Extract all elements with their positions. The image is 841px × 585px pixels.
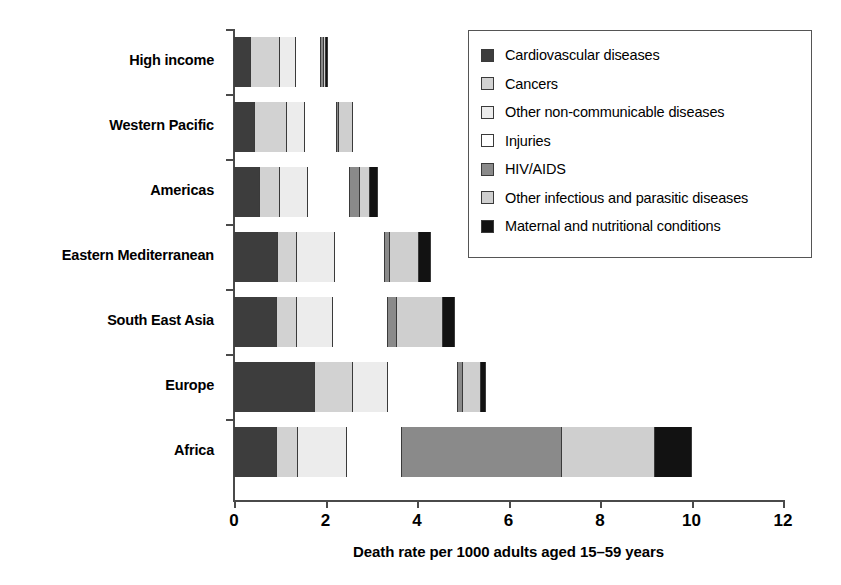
bar-africa [234, 427, 692, 477]
bar-segment-other-non-communicable-diseases [280, 167, 308, 217]
legend-label: Injuries [505, 133, 551, 149]
x-axis-tick [326, 500, 328, 508]
bar-segment-maternal-and-nutritional-conditions [443, 297, 455, 347]
y-axis-category-labels: High incomeWestern PacificAmericasEaster… [0, 0, 224, 500]
bar-segment-cancers [251, 37, 280, 87]
bar-segment-other-infectious-and-parasitic-diseases [463, 362, 481, 412]
x-axis-tick [692, 500, 694, 508]
bar-segment-hiv-aids [350, 167, 360, 217]
bar-segment-other-infectious-and-parasitic-diseases [562, 427, 655, 477]
bar-segment-other-infectious-and-parasitic-diseases [360, 167, 370, 217]
x-axis-tick [783, 500, 785, 508]
legend-item-other-non-communicable-diseases: Other non-communicable diseases [481, 98, 799, 127]
bar-segment-cardiovascular-diseases [234, 297, 277, 347]
bar-segment-other-non-communicable-diseases [297, 232, 335, 282]
legend-label: Cardiovascular diseases [505, 47, 660, 63]
x-axis-tick-label: 10 [682, 511, 701, 531]
bar-segment-cancers [278, 232, 297, 282]
y-axis-tick [226, 29, 235, 31]
bar-segment-cancers [277, 297, 297, 347]
chart-figure: High incomeWestern PacificAmericasEaster… [0, 0, 841, 585]
bar-segment-cancers [255, 102, 287, 152]
y-axis-tick [226, 419, 235, 421]
x-axis-tick-label: 8 [595, 511, 604, 531]
bar-segment-other-non-communicable-diseases [287, 102, 305, 152]
bar-segment-other-infectious-and-parasitic-diseases [397, 297, 443, 347]
legend-item-cancers: Cancers [481, 70, 799, 99]
bar-segment-other-non-communicable-diseases [280, 37, 296, 87]
plot-area: High incomeWestern PacificAmericasEaster… [0, 0, 841, 585]
legend-label: HIV/AIDS [505, 161, 566, 177]
bar-segment-other-infectious-and-parasitic-diseases [339, 102, 353, 152]
bar-segment-cardiovascular-diseases [234, 167, 260, 217]
bar-americas [234, 167, 378, 217]
bar-europe [234, 362, 486, 412]
bar-segment-other-infectious-and-parasitic-diseases [390, 232, 419, 282]
bar-segment-cardiovascular-diseases [234, 37, 251, 87]
legend-swatch-icon [481, 134, 494, 147]
legend-item-cardiovascular-diseases: Cardiovascular diseases [481, 41, 799, 70]
x-axis-tick-label: 2 [321, 511, 330, 531]
bar-segment-cardiovascular-diseases [234, 232, 278, 282]
legend-item-other-infectious-and-parasitic-diseases: Other infectious and parasitic diseases [481, 184, 799, 213]
bar-high-income [234, 37, 328, 87]
y-axis-label-western-pacific: Western Pacific [109, 117, 214, 133]
bar-segment-injuries [388, 362, 458, 412]
y-axis-label-south-east-asia: South East Asia [107, 312, 214, 328]
bar-south-east-asia [234, 297, 455, 347]
bar-segment-other-non-communicable-diseases [297, 297, 333, 347]
x-axis-tick [600, 500, 602, 508]
legend-item-hiv-aids: HIV/AIDS [481, 155, 799, 184]
y-axis-tick [226, 354, 235, 356]
bar-western-pacific [234, 102, 353, 152]
x-axis-tick [234, 500, 236, 508]
legend-label: Cancers [505, 76, 558, 92]
legend-label: Maternal and nutritional conditions [505, 218, 721, 234]
y-axis-tick [226, 289, 235, 291]
bar-segment-cancers [315, 362, 353, 412]
bar-segment-maternal-and-nutritional-conditions [655, 427, 692, 477]
legend-swatch-icon [481, 106, 494, 119]
x-axis-tick-label: 0 [229, 511, 238, 531]
legend-swatch-icon [481, 163, 494, 176]
bar-segment-cancers [260, 167, 280, 217]
bar-segment-injuries [335, 232, 385, 282]
x-axis-tick-label: 12 [774, 511, 793, 531]
y-axis-label-africa: Africa [174, 442, 214, 458]
x-axis-tick [509, 500, 511, 508]
bar-eastern-mediterranean [234, 232, 431, 282]
legend-item-maternal-and-nutritional-conditions: Maternal and nutritional conditions [481, 212, 799, 241]
bar-segment-cancers [277, 427, 297, 477]
legend-swatch-icon [481, 220, 494, 233]
y-axis-label-americas: Americas [150, 182, 214, 198]
bar-segment-injuries [308, 167, 350, 217]
bar-segment-hiv-aids [388, 297, 397, 347]
bar-segment-maternal-and-nutritional-conditions [419, 232, 431, 282]
y-axis-label-europe: Europe [165, 377, 214, 393]
bar-segment-other-non-communicable-diseases [298, 427, 348, 477]
bar-segment-cardiovascular-diseases [234, 102, 255, 152]
x-axis-tick-label: 4 [412, 511, 421, 531]
y-axis-tick [226, 159, 235, 161]
x-axis-tick [417, 500, 419, 508]
legend-item-injuries: Injuries [481, 127, 799, 156]
bar-segment-injuries [296, 37, 321, 87]
legend-label: Other infectious and parasitic diseases [505, 190, 748, 206]
bar-segment-maternal-and-nutritional-conditions [370, 167, 378, 217]
legend-label: Other non-communicable diseases [505, 104, 724, 120]
legend: Cardiovascular diseasesCancersOther non-… [468, 30, 812, 258]
bar-segment-maternal-and-nutritional-conditions [481, 362, 486, 412]
bar-segment-injuries [347, 427, 402, 477]
bar-segment-injuries [333, 297, 388, 347]
bar-segment-cardiovascular-diseases [234, 362, 315, 412]
x-axis-label: Death rate per 1000 adults aged 15–59 ye… [234, 543, 783, 560]
y-axis-label-high-income: High income [129, 52, 214, 68]
bar-segment-cardiovascular-diseases [234, 427, 277, 477]
bar-segment-other-non-communicable-diseases [353, 362, 388, 412]
bar-segment-hiv-aids [402, 427, 562, 477]
legend-swatch-icon [481, 191, 494, 204]
x-axis-tick-label: 6 [504, 511, 513, 531]
legend-swatch-icon [481, 49, 494, 62]
y-axis-tick [226, 224, 235, 226]
y-axis-tick [226, 94, 235, 96]
